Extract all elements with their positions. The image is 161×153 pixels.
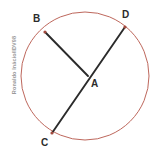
chord-cd — [52, 27, 125, 133]
segment-ba — [45, 32, 88, 76]
circle-outline — [21, 12, 149, 140]
point-label-d: D — [122, 10, 129, 20]
point-label-c: C — [41, 138, 48, 148]
vertex-dot-c — [50, 131, 53, 134]
watermark-text: Ronaldo Inácio/IDV98 — [11, 29, 17, 101]
point-label-a: A — [91, 79, 98, 89]
diagram-canvas: B D C A Ronaldo Inácio/IDV98 — [0, 0, 161, 153]
point-label-b: B — [33, 14, 40, 24]
vertex-dot-d — [123, 25, 126, 28]
vertex-dot-b — [43, 30, 46, 33]
circle-geometry-figure — [0, 0, 161, 153]
